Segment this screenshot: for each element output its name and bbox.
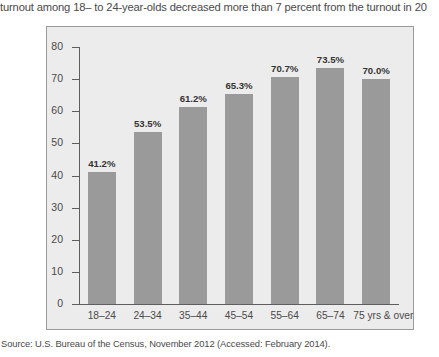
- y-axis-tick-label: 70: [51, 72, 63, 84]
- bar-value-label: 61.2%: [180, 93, 207, 104]
- x-axis-category-label: 45–54: [216, 310, 262, 321]
- x-axis-category-label: 18–24: [79, 310, 125, 321]
- y-axis-tick: 30: [72, 208, 79, 209]
- bar-value-label: 73.5%: [317, 54, 344, 65]
- y-axis-tick-label: 30: [51, 201, 63, 213]
- y-axis-tick: 50: [72, 143, 79, 144]
- bar: [179, 107, 207, 304]
- bar-column: 53.5%: [134, 132, 162, 304]
- y-axis-tick: 40: [72, 176, 79, 177]
- bar-column: 65.3%: [225, 94, 253, 304]
- source-note: Source: U.S. Bureau of the Census, Novem…: [1, 338, 330, 349]
- y-axis-tick: 70: [72, 79, 79, 80]
- y-axis-tick: 20: [72, 240, 79, 241]
- y-axis-tick: 10: [72, 272, 79, 273]
- bar: [225, 94, 253, 304]
- x-axis-category-label: 55–64: [262, 310, 308, 321]
- x-axis-category-label: 24–34: [125, 310, 171, 321]
- bar-column: 41.2%: [88, 172, 116, 304]
- y-axis-tick: 0: [72, 304, 79, 305]
- x-axis-line: [79, 304, 399, 305]
- y-axis-tick-label: 0: [57, 297, 63, 309]
- bar: [88, 172, 116, 304]
- bar-value-label: 70.0%: [363, 65, 390, 76]
- body-paragraph-text: turnout among 18– to 24-year-olds decrea…: [0, 0, 439, 14]
- bar-value-label: 41.2%: [88, 158, 115, 169]
- y-axis-tick: 80: [72, 47, 79, 48]
- y-axis-tick-label: 60: [51, 104, 63, 116]
- y-axis-tick-label: 20: [51, 233, 63, 245]
- bar-value-label: 65.3%: [225, 80, 252, 91]
- chart-plot-area: 01020304050607080 41.2%53.5%61.2%65.3%70…: [79, 47, 399, 304]
- y-axis-tick-label: 50: [51, 136, 63, 148]
- bar-value-label: 53.5%: [134, 118, 161, 129]
- bar: [316, 68, 344, 304]
- bar: [134, 132, 162, 304]
- bar: [362, 79, 390, 304]
- x-axis-category-label: 35–44: [170, 310, 216, 321]
- bar-column: 73.5%: [316, 68, 344, 304]
- y-axis-tick: 60: [72, 111, 79, 112]
- bar-value-label: 70.7%: [271, 63, 298, 74]
- bar: [271, 77, 299, 304]
- bar-column: 70.7%: [271, 77, 299, 304]
- y-axis-tick-label: 40: [51, 169, 63, 181]
- y-axis-line: [79, 47, 80, 304]
- chart-figure-frame: 01020304050607080 41.2%53.5%61.2%65.3%70…: [46, 26, 414, 330]
- y-axis-tick-label: 80: [51, 40, 63, 52]
- bar-column: 61.2%: [179, 107, 207, 304]
- y-axis-tick-label: 10: [51, 265, 63, 277]
- x-axis-category-label: 65–74: [308, 310, 354, 321]
- bar-column: 70.0%: [362, 79, 390, 304]
- x-axis-category-label: 75 yrs & over: [353, 310, 399, 321]
